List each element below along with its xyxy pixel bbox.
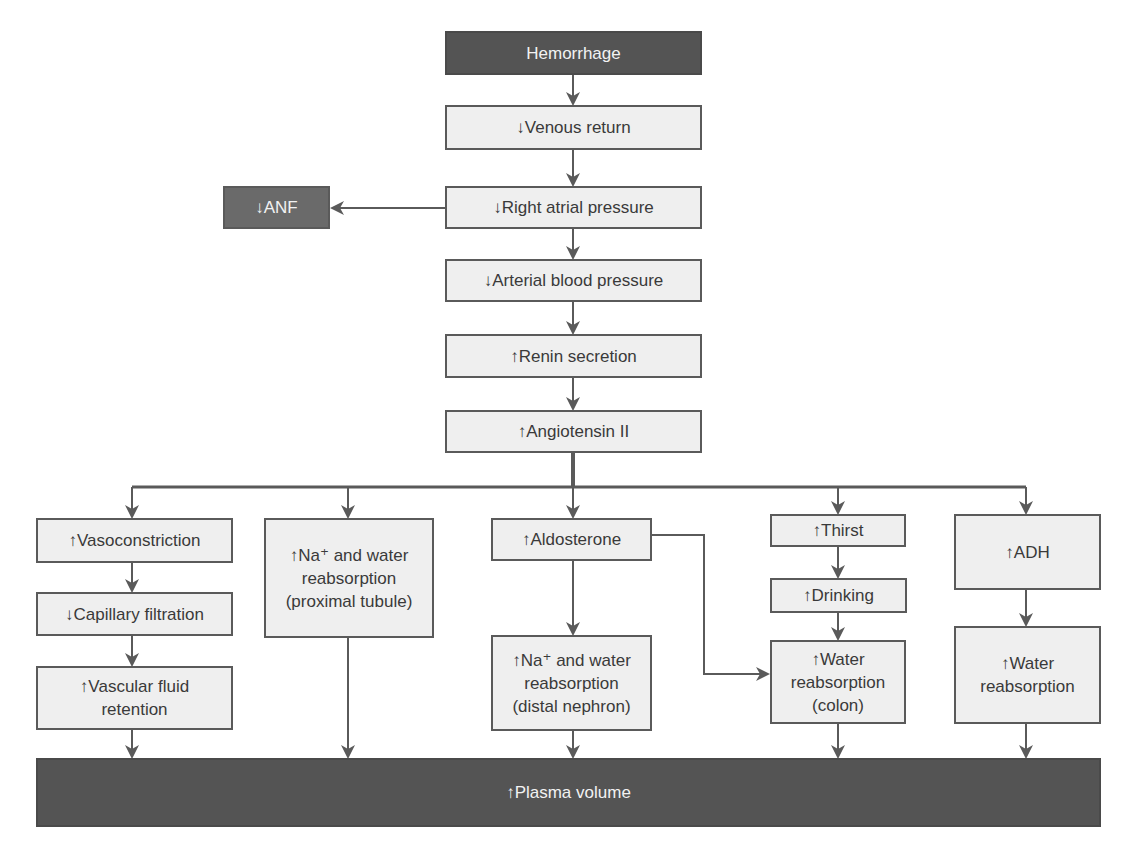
node-adh: ↑ADH xyxy=(954,514,1101,590)
node-na-proximal-tubule: ↑Na⁺ and water reabsorption (proximal tu… xyxy=(264,518,434,638)
node-drinking: ↑Drinking xyxy=(770,578,907,613)
node-label-line: reabsorption xyxy=(980,675,1075,698)
node-label: ↓Arterial blood pressure xyxy=(484,269,664,292)
node-label-line: ↑Na⁺ and water xyxy=(290,544,409,567)
node-label: ↓Right atrial pressure xyxy=(493,196,654,219)
node-label: ↑Aldosterone xyxy=(522,528,621,551)
node-label-line: reabsorption xyxy=(524,672,619,695)
node-label-line: reabsorption xyxy=(791,671,886,694)
node-label-line: ↑Water xyxy=(811,648,864,671)
node-label-line: ↑Vascular fluid xyxy=(80,675,189,698)
node-label: ↓Capillary filtration xyxy=(65,603,204,626)
node-label: ↑Renin secretion xyxy=(510,345,637,368)
node-plasma-volume: ↑Plasma volume xyxy=(36,758,1101,827)
node-angiotensin-ii: ↑Angiotensin II xyxy=(445,410,702,453)
node-aldosterone: ↑Aldosterone xyxy=(491,518,652,561)
node-anf: ↓ANF xyxy=(223,186,330,229)
node-water-reabsorption-colon: ↑Water reabsorption (colon) xyxy=(770,640,906,724)
node-label-line: (colon) xyxy=(812,694,864,717)
node-label-line: ↑Water xyxy=(1001,652,1054,675)
node-label: ↑Angiotensin II xyxy=(518,420,630,443)
node-venous-return: ↓Venous return xyxy=(445,105,702,150)
node-hemorrhage: Hemorrhage xyxy=(445,31,702,75)
node-label: ↑ADH xyxy=(1005,541,1049,564)
node-arterial-blood-pressure: ↓Arterial blood pressure xyxy=(445,259,702,302)
node-renin-secretion: ↑Renin secretion xyxy=(445,334,702,378)
node-label: ↑Vasoconstriction xyxy=(69,529,201,552)
node-vasoconstriction: ↑Vasoconstriction xyxy=(36,518,233,563)
node-label-line: (proximal tubule) xyxy=(286,590,413,613)
node-thirst: ↑Thirst xyxy=(770,514,906,547)
node-label: ↓Venous return xyxy=(516,116,630,139)
node-right-atrial-pressure: ↓Right atrial pressure xyxy=(445,186,702,229)
node-na-distal-nephron: ↑Na⁺ and water reabsorption (distal neph… xyxy=(491,635,652,731)
node-vascular-fluid-retention: ↑Vascular fluid retention xyxy=(36,666,233,730)
node-label: ↑Thirst xyxy=(813,519,864,542)
node-label: ↑Drinking xyxy=(803,584,874,607)
node-capillary-filtration: ↓Capillary filtration xyxy=(36,592,233,636)
node-label: Hemorrhage xyxy=(526,42,621,65)
node-label-line: retention xyxy=(101,698,167,721)
node-label-line: reabsorption xyxy=(302,567,397,590)
node-label-line: ↑Na⁺ and water xyxy=(512,649,631,672)
node-label: ↑Plasma volume xyxy=(506,781,631,804)
node-water-reabsorption: ↑Water reabsorption xyxy=(954,626,1101,724)
node-label: ↓ANF xyxy=(255,196,298,219)
node-label-line: (distal nephron) xyxy=(512,695,630,718)
